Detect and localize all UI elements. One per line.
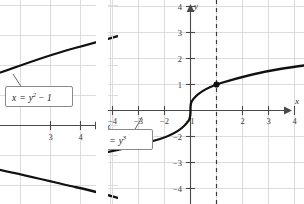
figure-pair-canvas: 3 4 x x=y2− 1 bbox=[0, 0, 304, 204]
right-ytick-label-3: 3 bbox=[178, 28, 182, 38]
right-ytick-label-2: 2 bbox=[178, 54, 182, 64]
right-xtick-label--4: −4 bbox=[108, 116, 118, 126]
right-xtick-label-4: 4 bbox=[292, 116, 297, 126]
right-xtick-label-3: 3 bbox=[266, 116, 270, 126]
right-x-axis bbox=[106, 106, 295, 115]
right-xtick-label-2: 2 bbox=[240, 116, 244, 126]
left-eq-tail: − 1 bbox=[38, 93, 52, 103]
marked-point-1-1 bbox=[213, 81, 219, 87]
right-x-axis-label: x bbox=[294, 96, 299, 106]
right-ytick-label--4: −4 bbox=[173, 184, 183, 194]
left-eq-sign: = bbox=[19, 93, 25, 103]
right-figure-panel: −4 −3 −2 −1 2 3 4 4 3 2 1 −2 −3 −4 x y bbox=[106, 0, 304, 204]
right-ytick-label--3: −3 bbox=[173, 158, 182, 168]
right-xtick-label--2: −2 bbox=[160, 116, 169, 126]
left-xtick-label-4: 4 bbox=[78, 132, 83, 142]
right-eq-sign: = bbox=[109, 136, 115, 146]
right-ytick-label-1: 1 bbox=[178, 80, 182, 90]
right-y-axis-label: y bbox=[193, 1, 198, 11]
left-x-axis bbox=[0, 121, 103, 130]
panel-gutter bbox=[96, 0, 108, 204]
right-figure-svg: −4 −3 −2 −1 2 3 4 4 3 2 1 −2 −3 −4 x y bbox=[106, 0, 304, 204]
left-eq-lhs: x bbox=[11, 93, 17, 103]
right-grid bbox=[106, 0, 304, 204]
left-xtick-label-3: 3 bbox=[48, 132, 52, 142]
